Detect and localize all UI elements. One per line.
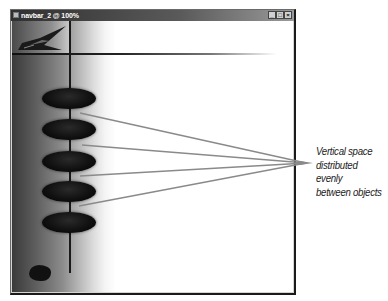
annotation-line-2: distributed evenly [316, 159, 382, 186]
annotation-line-1: Vertical space [316, 145, 382, 159]
annotation-line-3: between objects [316, 186, 382, 200]
annotation-callout: Vertical space distributed evenly betwee… [316, 145, 382, 199]
